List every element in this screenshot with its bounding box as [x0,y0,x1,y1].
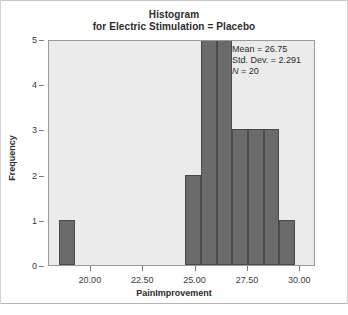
statistics-annotation: Mean = 26.75 Std. Dev. = 2.291 N = 20 [232,44,301,77]
x-tick-mark [195,266,196,271]
y-tick-label: 3 [7,125,37,135]
x-tick-label: 20.00 [65,275,115,285]
y-tick-mark [39,176,44,177]
stat-n-value: = 20 [239,66,259,76]
histogram-bar [185,175,201,265]
y-axis-title: Frequency [7,108,17,208]
x-tick-label: 22.50 [117,275,167,285]
y-tick-mark [39,221,44,222]
x-tick-label: 30.00 [274,275,324,285]
y-tick-mark [39,130,44,131]
x-tick-mark [247,266,248,271]
chart-title-line-1: Histogram [0,9,348,21]
y-tick-mark [39,40,44,41]
chart-title: Histogram for Electric Stimulation = Pla… [0,9,348,33]
x-tick-mark [299,266,300,271]
stat-sample-size: N = 20 [232,66,301,77]
y-tick-label: 2 [7,171,37,181]
x-tick-label: 27.50 [222,275,272,285]
histogram-bar [217,40,233,265]
y-tick-label: 5 [7,35,37,45]
histogram-bar [59,220,75,265]
histogram-bar [264,129,280,265]
frame-border-top [0,0,348,1]
x-tick-label: 25.00 [170,275,220,285]
histogram-bar [248,129,264,265]
histogram-bar [201,40,217,265]
y-tick-label: 1 [7,216,37,226]
x-axis-title: PainImprovement [0,288,348,298]
x-axis: PainImprovement 20.0022.5025.0027.5030.0… [0,266,348,315]
x-tick-mark [142,266,143,271]
y-tick-mark [39,85,44,86]
chart-title-line-2: for Electric Stimulation = Placebo [0,21,348,33]
histogram-bar [232,129,248,265]
histogram-bar [279,220,295,265]
stat-std-dev: Std. Dev. = 2.291 [232,55,301,66]
histogram-chart: Histogram for Electric Stimulation = Pla… [0,0,348,315]
stat-mean: Mean = 26.75 [232,44,301,55]
x-tick-mark [90,266,91,271]
y-tick-label: 4 [7,80,37,90]
